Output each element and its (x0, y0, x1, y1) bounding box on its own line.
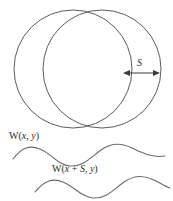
shear-label: S (137, 58, 142, 68)
left-circle (14, 10, 132, 128)
shear-arrow-head-left-icon (123, 70, 130, 76)
right-circle (43, 10, 161, 128)
wavefront-label-1: W(x, y) (9, 131, 39, 141)
wavefront-label-2: W(x + S, y) (52, 164, 98, 174)
shear-arrow-head-right-icon (153, 70, 160, 76)
wavefront-curve-2 (35, 176, 170, 198)
figure-container: S W(x, y) W(x + S, y) (0, 0, 173, 201)
